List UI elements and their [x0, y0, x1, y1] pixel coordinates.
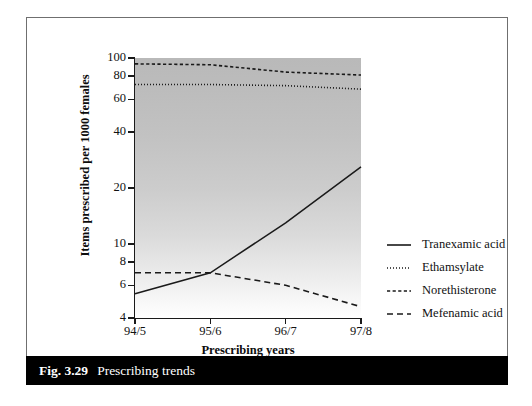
figure-caption-bar: Fig. 3.29 Prescribing trends [26, 356, 508, 385]
x-tick-label: 95/6 [180, 324, 240, 339]
legend-label: Ethamsylate [422, 260, 484, 275]
series-line [135, 167, 361, 294]
legend-item: Norethisterone [387, 279, 532, 302]
figure-frame: 4681020406080100 94/595/696/797/8 Items … [26, 17, 508, 385]
legend-label: Tranexamic acid [422, 237, 505, 252]
series-layer [135, 58, 361, 318]
chart-legend: Tranexamic acidEthamsylateNorethisterone… [387, 233, 532, 325]
y-tick-mark [128, 243, 134, 244]
legend-line-sample [387, 239, 411, 251]
y-tick-mark [128, 57, 134, 58]
series-line [135, 64, 361, 75]
legend-label: Mefenamic acid [422, 306, 503, 321]
y-tick-mark [128, 317, 134, 318]
y-tick-mark [128, 75, 134, 76]
legend-item: Mefenamic acid [387, 302, 532, 325]
caption-number: Fig. 3.29 [39, 363, 88, 379]
y-tick-label-wrap: 4 [82, 318, 126, 319]
x-axis-line [134, 318, 362, 319]
legend-line-sample [387, 262, 411, 274]
legend-line-sample [387, 308, 411, 320]
y-tick-mark [128, 187, 134, 188]
caption-text: Prescribing trends [97, 363, 195, 379]
y-axis-line [134, 57, 135, 319]
y-tick-label: 100 [86, 51, 126, 64]
y-tick-mark [128, 131, 134, 132]
y-tick-label: 6 [86, 278, 126, 291]
y-axis-title: Items prescribed per 1000 females [78, 66, 93, 266]
y-tick-label: 4 [86, 311, 126, 324]
y-tick-mark [128, 261, 134, 262]
plot-area [135, 58, 361, 318]
legend-item: Tranexamic acid [387, 233, 532, 256]
legend-label: Norethisterone [422, 283, 496, 298]
x-tick-label: 96/7 [256, 324, 316, 339]
legend-line-sample [387, 285, 411, 297]
y-tick-mark [128, 285, 134, 286]
x-tick-label: 94/5 [105, 324, 165, 339]
y-tick-label-wrap: 6 [82, 285, 126, 286]
x-tick-label: 97/8 [331, 324, 391, 339]
series-line [135, 85, 361, 90]
figure-root: 4681020406080100 94/595/696/797/8 Items … [0, 0, 532, 406]
y-tick-mark [128, 99, 134, 100]
series-line [135, 273, 361, 307]
legend-item: Ethamsylate [387, 256, 532, 279]
y-tick-label-wrap: 100 [82, 58, 126, 59]
